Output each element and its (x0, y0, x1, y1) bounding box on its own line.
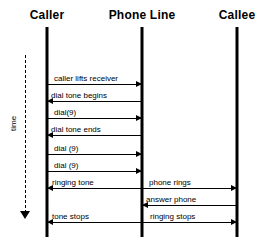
lifeline-header-phone-line: Phone Line (109, 8, 176, 22)
message-arrowhead-right (231, 219, 237, 225)
message-line (47, 118, 142, 119)
message-line (142, 188, 237, 189)
message-arrowhead-right (136, 115, 142, 121)
time-axis-line (25, 55, 27, 213)
message-label: dial(9) (54, 108, 76, 117)
message-line (142, 205, 237, 206)
time-axis-arrowhead (20, 211, 30, 219)
sequence-diagram: Caller Phone Line Callee time caller lif… (0, 0, 271, 247)
message-line (47, 222, 142, 223)
message-line (47, 84, 142, 85)
message-line (47, 188, 142, 189)
time-axis-label: time (9, 116, 18, 131)
message-label: phone rings (149, 178, 191, 187)
message-arrowhead-right (231, 185, 237, 191)
message-label: ringing stops (150, 212, 195, 221)
message-line (47, 135, 142, 136)
message-arrowhead-right (136, 151, 142, 157)
message-label: caller lifts receiver (54, 74, 118, 83)
message-label: ringing tone (52, 178, 94, 187)
message-label: answer phone (146, 195, 196, 204)
message-line (142, 222, 237, 223)
message-line (47, 154, 142, 155)
lifeline-header-caller: Caller (30, 8, 65, 22)
message-arrowhead-right (136, 168, 142, 174)
lifeline-header-callee: Callee (219, 8, 256, 22)
message-label: dial (9) (54, 144, 78, 153)
message-arrowhead-right (136, 81, 142, 87)
message-line (47, 101, 142, 102)
message-label: dial tone ends (51, 125, 101, 134)
message-label: tone stops (52, 212, 89, 221)
message-label: dial (9) (54, 161, 78, 170)
message-line (47, 171, 142, 172)
message-label: dial tone begins (51, 91, 107, 100)
